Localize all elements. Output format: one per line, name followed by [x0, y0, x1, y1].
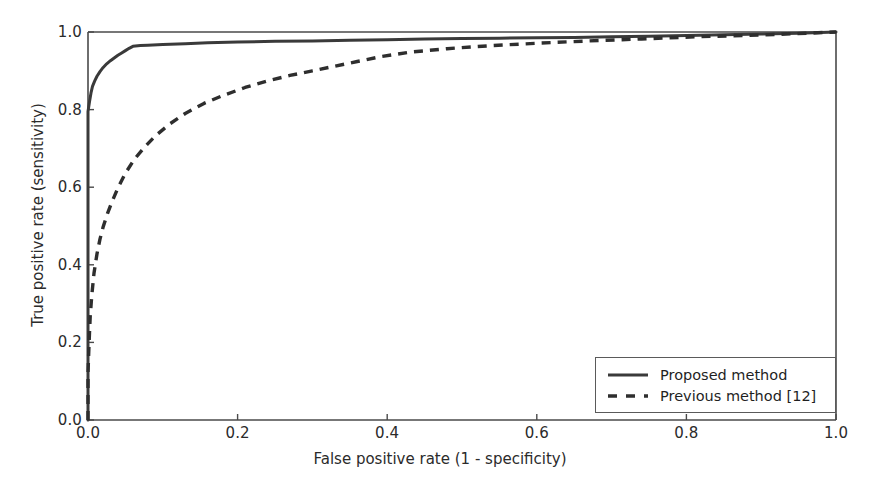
- legend-line-sample-solid: [606, 368, 650, 382]
- ytick-label-2: 0.4: [42, 256, 82, 274]
- xtick-label-2: 0.4: [375, 424, 399, 442]
- legend-item-previous-method: Previous method [12]: [606, 385, 825, 406]
- legend-item-proposed-method: Proposed method: [606, 364, 825, 385]
- legend-line-sample-dashed: [606, 389, 650, 403]
- roc-curve-figure: 0.0 0.2 0.4 0.6 0.8 1.0 0.0 0.2 0.4 0.6 …: [0, 0, 880, 483]
- legend-label-proposed-method: Proposed method: [660, 367, 787, 383]
- y-axis-label-wrapper: True positive rate (sensitivity): [29, 15, 47, 415]
- xtick-label-1: 0.2: [226, 424, 250, 442]
- xtick-label-5: 1.0: [824, 424, 848, 442]
- legend-label-previous-method: Previous method [12]: [660, 388, 816, 404]
- xtick-label-3: 0.6: [525, 424, 549, 442]
- ytick-label-3: 0.6: [42, 178, 82, 196]
- ytick-label-0: 0.0: [42, 411, 82, 429]
- y-axis-label: True positive rate (sensitivity): [29, 103, 47, 327]
- chart-legend: Proposed method Previous method [12]: [595, 357, 836, 413]
- ytick-label-4: 0.8: [42, 101, 82, 119]
- x-axis-label: False positive rate (1 - specificity): [0, 450, 880, 468]
- ytick-label-5: 1.0: [42, 23, 82, 41]
- xtick-label-4: 0.8: [674, 424, 698, 442]
- ytick-label-1: 0.2: [42, 333, 82, 351]
